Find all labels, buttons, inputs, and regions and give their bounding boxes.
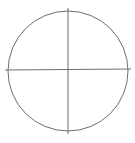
quartered-circle-diagram bbox=[0, 0, 135, 143]
